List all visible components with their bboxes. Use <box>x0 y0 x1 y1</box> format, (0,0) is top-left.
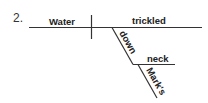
verb-word: trickled <box>132 15 166 26</box>
subject-word: Water <box>49 16 75 27</box>
object-word: neck <box>147 53 169 64</box>
sentence-diagram: Water trickled down neck Mark's <box>0 0 208 103</box>
